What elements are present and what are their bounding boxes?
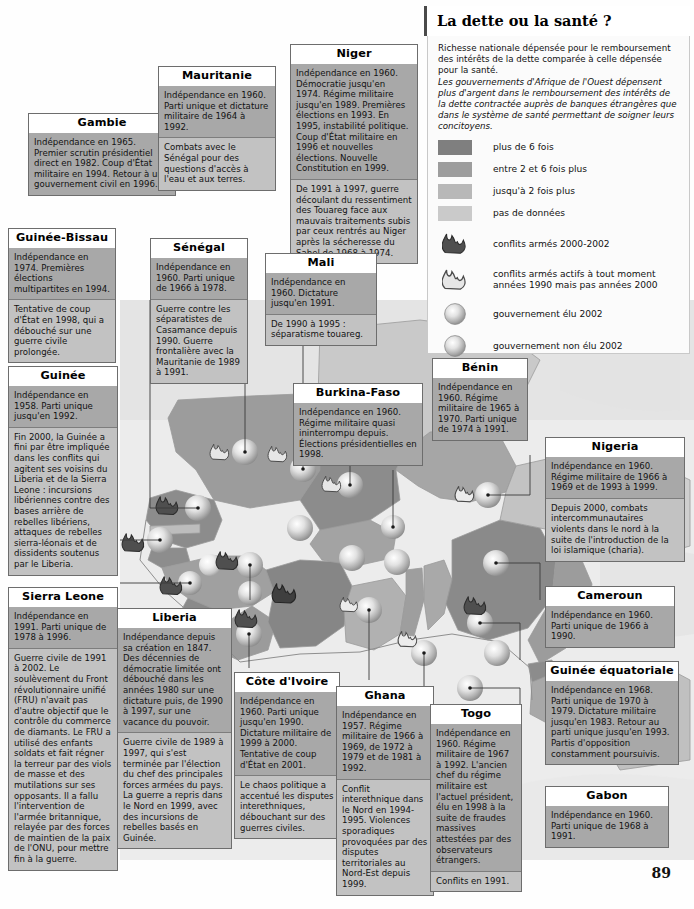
swatch-color-0 [438,140,472,155]
symbol-label-2: gouvernement élu 2002 [493,309,603,320]
symbol-label-0: conflits armés 2000-2002 [493,239,610,250]
country-text-liberia-0: Indépendance depuis sa création en 1847.… [118,628,231,732]
country-title-guinee-equatoriale: Guinée équatoriale [546,662,678,681]
legend-row-symbol-3: gouvernement non élu 2002 [438,333,679,359]
country-text-cote-divoire-1: Le chaos politique a accentué les disput… [235,775,339,838]
swatch-color-1 [438,162,472,177]
legend-row-symbol-1: conflits armés actifs à tout moment anné… [438,264,679,296]
country-text-mauritanie-1: Combats avec le Sénégal pour des questio… [159,137,275,189]
symbol-label-1: conflits armés actifs à tout moment anné… [493,269,679,292]
country-box-sierra-leone[interactable]: Sierra Leone Indépendance en 1991. Parti… [8,587,118,871]
swatch-color-2 [438,184,472,199]
flame-dark-icon [438,232,472,256]
country-text-ghana-1: Conflit interethnique dans le Nord en 19… [337,779,433,895]
swatch-label-0: plus de 6 fois [493,142,554,153]
country-box-senegal[interactable]: Sénégal Indépendance en 1960. Parti uniq… [150,238,248,384]
country-title-cote-divoire: Côte d'Ivoire [235,673,339,692]
legend-swatch-rows: plus de 6 fois entre 2 et 6 fois plus ju… [438,139,679,359]
map-page: La dette ou la santé ? Richesse national… [0,0,694,909]
country-box-togo[interactable]: Togo Indépendance en 1960. Régime milita… [430,704,522,892]
country-title-mali: Mali [266,254,376,273]
country-title-togo: Togo [431,705,521,724]
legend-intro-italic: Les gouvernements d'Afrique de l'Ouest d… [438,77,679,132]
country-box-mauritanie[interactable]: Mauritanie Indépendance en 1960. Parti u… [158,66,276,191]
country-box-cameroun[interactable]: Cameroun Indépendance en 1960. Parti uni… [545,586,675,648]
country-text-senegal-1: Guerre contre les séparatistes de Casama… [151,299,247,383]
country-text-guinee-bissau-1: Tentative de coup d'État en 1998, qui a … [9,299,115,362]
country-text-mali-1: De 1990 à 1995 : séparatisme touareg. [266,314,376,345]
country-box-nigeria[interactable]: Nigeria Indépendance en 1960. Régime mil… [545,437,685,562]
country-title-nigeria: Nigeria [546,438,684,457]
country-text-benin-0: Indépendance en 1960. Régime militaire d… [433,378,527,440]
legend-row-swatch-1: entre 2 et 6 fois plus [438,161,679,178]
country-text-guinee-1: Fin 2000, la Guinée a fini par être impl… [9,427,117,575]
country-box-gambie[interactable]: Gambie Indépendance en 1965. Premier scr… [28,113,176,196]
country-text-mauritanie-0: Indépendance en 1960. Parti unique et di… [159,86,275,137]
legend-panel: La dette ou la santé ? Richesse national… [424,6,690,354]
country-box-guinee[interactable]: Guinée Indépendance en 1958. Parti uniqu… [8,366,118,576]
symbol-label-3: gouvernement non élu 2002 [493,341,623,352]
country-text-gambie-0: Indépendance en 1965. Premier scrutin pr… [29,133,175,195]
sphere-unelected-icon [438,334,472,358]
country-text-sierra-leone-1: Guerre civile de 1991 à 2002. Le soulève… [9,648,117,870]
legend-row-swatch-2: jusqu'à 2 fois plus [438,183,679,200]
legend-row-symbol-2: gouvernement élu 2002 [438,301,679,327]
country-title-mauritanie: Mauritanie [159,67,275,86]
country-text-liberia-1: Guerre civile de 1989 à 1997, qui s'est … [118,732,231,848]
country-text-cote-divoire-0: Indépendance en 1960. Parti unique jusqu… [235,692,339,775]
sphere-unelected-icon [484,640,510,666]
legend-row-swatch-0: plus de 6 fois [438,139,679,156]
flame-light-icon [438,268,472,292]
country-title-gambie: Gambie [29,114,175,133]
country-text-nigeria-1: Depuis 2000, combats intercommunautaires… [546,498,684,561]
country-box-cote-divoire[interactable]: Côte d'Ivoire Indépendance en 1960. Part… [234,672,340,839]
country-box-guinee-bissau[interactable]: Guinée-Bissau Indépendance en 1974. Prem… [8,228,116,363]
sphere-elected-icon [287,515,313,541]
country-title-benin: Bénin [433,359,527,378]
country-title-guinee-bissau: Guinée-Bissau [9,229,115,248]
country-box-mali[interactable]: Mali Indépendance en 1960. Dictature jus… [265,253,377,346]
country-text-guinee-equatoriale-0: Indépendance en 1968. Parti unique de 19… [546,681,678,764]
country-title-gabon: Gabon [546,787,668,806]
country-text-sierra-leone-0: Indépendance en 1991. Parti unique de 19… [9,607,117,648]
country-text-gabon-0: Indépendance en 1960. Parti unique de 19… [546,806,668,847]
country-title-senegal: Sénégal [151,239,247,258]
country-title-sierra-leone: Sierra Leone [9,588,117,607]
sphere-elected-icon [384,549,410,575]
country-text-togo-1: Conflits en 1991. [431,871,521,892]
country-text-senegal-0: Indépendance en 1960. Parti unique de 19… [151,258,247,299]
country-title-liberia: Liberia [118,609,231,628]
country-box-guinee-equatoriale[interactable]: Guinée équatoriale Indépendance en 1968.… [545,661,679,765]
country-text-ghana-0: Indépendance en 1957. Régime militaire d… [337,706,433,779]
legend-body: Richesse nationale dépensée pour le remb… [427,36,690,354]
legend-title-bar: La dette ou la santé ? [424,6,690,36]
country-box-gabon[interactable]: Gabon Indépendance en 1960. Parti unique… [545,786,669,848]
country-box-liberia[interactable]: Liberia Indépendance depuis sa création … [117,608,232,849]
country-text-togo-0: Indépendance en 1960. Régime militaire d… [431,724,521,871]
country-text-niger-0: Indépendance en 1960. Démocratie jusqu'e… [291,64,417,179]
legend-title: La dette ou la santé ? [427,6,690,29]
country-title-niger: Niger [291,45,417,64]
country-box-benin[interactable]: Bénin Indépendance en 1960. Régime milit… [432,358,528,441]
country-text-guinee-0: Indépendance en 1958. Parti unique jusqu… [9,386,117,427]
legend-intro-plain: Richesse nationale dépensée pour le remb… [438,43,671,75]
country-text-cameroun-0: Indépendance en 1960. Parti unique de 19… [546,606,674,647]
swatch-color-3 [438,206,472,221]
country-text-mali-0: Indépendance en 1960. Dictature jusqu'en… [266,273,376,314]
country-title-burkina-faso: Burkina-Faso [294,384,422,403]
country-title-ghana: Ghana [337,687,433,706]
country-text-niger-1: De 1991 à 1997, guerre découlant du ress… [291,179,417,263]
page-number: 89 [652,865,671,881]
legend-row-symbol-0: conflits armés 2000-2002 [438,231,679,257]
legend-intro: Richesse nationale dépensée pour le remb… [438,43,679,132]
country-title-guinee: Guinée [9,367,117,386]
country-text-nigeria-0: Indépendance en 1960. Régime militaire d… [546,457,684,498]
swatch-label-2: jusqu'à 2 fois plus [493,186,575,197]
country-title-cameroun: Cameroun [546,587,674,606]
country-box-niger[interactable]: Niger Indépendance en 1960. Démocratie j… [290,44,418,264]
swatch-label-3: pas de données [493,208,565,219]
country-text-guinee-bissau-0: Indépendance en 1974. Premières élection… [9,248,115,299]
country-box-ghana[interactable]: Ghana Indépendance en 1957. Régime milit… [336,686,434,896]
swatch-label-1: entre 2 et 6 fois plus [493,164,587,175]
country-box-burkina-faso[interactable]: Burkina-Faso Indépendance en 1960. Régim… [293,383,423,466]
